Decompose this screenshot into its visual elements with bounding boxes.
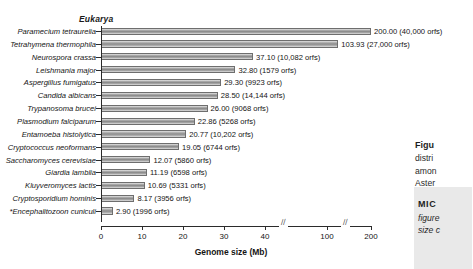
axis-break-mask: [279, 225, 288, 228]
chart-row: Cryptococcus neoformans19.05 (6744 orfs): [0, 143, 473, 156]
plot-area: Paramecium tetraurelia200.00 (40,000 orf…: [0, 24, 473, 214]
caption-line-1: distri: [415, 153, 433, 163]
chart-row: Aspergillus fumigatus29.30 (9923 orfs): [0, 78, 473, 91]
chart-row: Trypanosoma brucei26.00 (9068 orfs): [0, 104, 473, 117]
bar: [101, 105, 208, 112]
bar-value-label: 10.69 (5331 orfs): [148, 181, 206, 190]
x-axis-tick: [371, 226, 372, 230]
bar: [101, 28, 371, 35]
bar-value-label: 37.10 (10,082 orfs): [256, 53, 320, 62]
bar-value-label: 20.77 (10,202 orfs): [189, 130, 253, 139]
bar-value-label: 200.00 (40,000 orfs): [374, 27, 442, 36]
y-axis-line: [101, 26, 102, 222]
category-label: Kluyveromyces lactis: [25, 181, 96, 190]
x-axis-tick: [327, 226, 328, 230]
category-label: Paramecium tetraurelia: [18, 27, 97, 36]
chart-row: Tetrahymena thermophila103.93 (27,000 or…: [0, 40, 473, 53]
bar: [101, 169, 147, 176]
x-axis-tick-label: 40: [245, 232, 285, 241]
category-label: Cryptococcus neoformans: [8, 143, 96, 152]
caption-figure-label: Figu: [415, 140, 434, 150]
bar: [101, 130, 186, 137]
category-label: Giardia lamblia: [45, 168, 96, 177]
bar: [101, 156, 150, 163]
chart-row: Leishmania major32.80 (1579 orfs): [0, 66, 473, 79]
bar-value-label: 12.07 (5860 orfs): [153, 156, 211, 165]
category-label: Cryptosporidium hominis: [12, 194, 96, 203]
bar-value-label: 8.17 (3956 orfs): [137, 194, 191, 203]
bar-value-label: 2.90 (1996 orfs): [116, 207, 170, 216]
category-label: *Encephalitozoon cuniculi: [9, 207, 96, 216]
bar: [101, 92, 218, 99]
bar: [101, 207, 113, 214]
bar-value-label: 28.50 (14,144 orfs): [221, 91, 285, 100]
category-label: Leishmania major: [36, 66, 96, 75]
chart-row: Plasmodium falciparum22.86 (5268 orfs): [0, 117, 473, 130]
x-axis-tick: [265, 226, 266, 230]
bar-value-label: 26.00 (9068 orfs): [211, 104, 269, 113]
category-label: Tetrahymena thermophila: [10, 40, 96, 49]
chart-row: Giardia lamblia11.19 (6598 orfs): [0, 168, 473, 181]
chart-row: Neurospora crassa37.10 (10,082 orfs): [0, 53, 473, 66]
chart-row: *Encephalitozoon cuniculi2.90 (1996 orfs…: [0, 207, 473, 220]
caption-mic-label: MIC: [418, 199, 436, 209]
chart-row: Candida albicans28.50 (14,144 orfs): [0, 91, 473, 104]
caption-italic-2: size c: [418, 225, 440, 235]
chart-row: Saccharomyces cerevisiae12.07 (5860 orfs…: [0, 156, 473, 169]
chart-group-header: Eukarya: [79, 14, 113, 24]
bar: [101, 79, 221, 86]
category-label: Trypanosoma brucei: [27, 104, 96, 113]
category-label: Candida albicans: [38, 91, 96, 100]
category-label: Plasmodium falciparum: [17, 117, 96, 126]
x-axis-tick-label: 200: [351, 232, 391, 241]
category-label: Aspergillus fumigatus: [24, 78, 96, 87]
bar-value-label: 11.19 (6598 orfs): [150, 168, 207, 177]
x-axis-tick-label: 100: [307, 232, 347, 241]
chart-row: Cryptosporidium hominis8.17 (3956 orfs): [0, 194, 473, 207]
category-label: Entamoeba histolytica: [22, 130, 96, 139]
bar: [101, 66, 235, 73]
axis-break-mask: [341, 225, 350, 228]
bar: [101, 182, 145, 189]
chart-row: Kluyveromyces lactis10.69 (5331 orfs): [0, 181, 473, 194]
bar-value-label: 103.93 (27,000 orfs): [341, 40, 409, 49]
category-label: Neurospora crassa: [32, 53, 96, 62]
bar-value-label: 29.30 (9923 orfs): [224, 78, 282, 87]
bar-value-label: 32.80 (1579 orfs): [238, 66, 296, 75]
genome-size-bar-chart: Eukarya Paramecium tetraurelia200.00 (40…: [0, 0, 473, 269]
x-axis-tick-label: 0: [81, 232, 121, 241]
x-axis-tick: [142, 226, 143, 230]
chart-row: Paramecium tetraurelia200.00 (40,000 orf…: [0, 27, 473, 40]
caption-line-2: amon: [415, 166, 437, 176]
bar: [101, 118, 195, 125]
x-axis-tick: [101, 226, 102, 230]
x-axis-title: Genome size (Mb): [131, 247, 331, 257]
caption-italic-1: figure: [418, 213, 440, 223]
x-axis-tick: [183, 226, 184, 230]
bar: [101, 53, 253, 60]
x-axis-tick: [224, 226, 225, 230]
bar-value-label: 22.86 (5268 orfs): [198, 117, 256, 126]
figure-caption-pane: Figu distri amon Aster MIC figure size c: [404, 140, 473, 269]
bar-value-label: 19.05 (6744 orfs): [182, 143, 240, 152]
caption-line-3: Aster: [415, 178, 435, 188]
chart-row: Entamoeba histolytica20.77 (10,202 orfs): [0, 130, 473, 143]
category-label: Saccharomyces cerevisiae: [6, 156, 96, 165]
x-axis-tick-label: 30: [204, 232, 244, 241]
bar: [101, 40, 338, 47]
x-axis-tick-label: 10: [122, 232, 162, 241]
bar: [101, 143, 179, 150]
bar: [101, 195, 134, 202]
x-axis-tick-label: 20: [163, 232, 203, 241]
